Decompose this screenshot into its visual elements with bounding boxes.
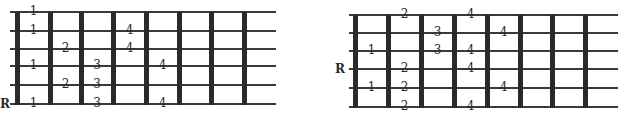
- finger-number: 2: [59, 41, 73, 55]
- root-label: R: [335, 63, 345, 75]
- finger-number: 1: [27, 23, 41, 37]
- finger-number: 4: [156, 96, 170, 110]
- fret-bar-5: [485, 15, 490, 108]
- fret-bar-4: [452, 15, 457, 108]
- finger-number: 4: [123, 23, 137, 37]
- fret-bar-8: [583, 15, 588, 108]
- fret-bar-3: [79, 12, 84, 105]
- finger-number: 3: [90, 58, 104, 72]
- finger-number: 2: [59, 77, 73, 91]
- fret-bar-6: [518, 15, 523, 108]
- finger-number: 1: [365, 80, 379, 94]
- finger-number: 1: [27, 58, 41, 72]
- finger-number: 1: [27, 4, 41, 18]
- fret-bar-1: [353, 15, 358, 108]
- fret-bar-7: [209, 12, 214, 105]
- finger-number: 4: [156, 58, 170, 72]
- fret-bar-5: [144, 12, 149, 105]
- root-label: R: [0, 98, 10, 110]
- fret-bar-1: [15, 12, 20, 105]
- finger-number: 1: [365, 43, 379, 57]
- finger-number: 3: [431, 25, 445, 39]
- fret-bar-2: [48, 12, 53, 105]
- finger-number: 2: [398, 61, 412, 75]
- finger-number: 4: [464, 99, 478, 113]
- finger-number: 3: [90, 77, 104, 91]
- fret-bar-2: [386, 15, 391, 108]
- finger-number: 4: [464, 61, 478, 75]
- finger-number: 4: [123, 41, 137, 55]
- fret-bar-7: [550, 15, 555, 108]
- fret-bar-8: [242, 12, 247, 105]
- fret-bar-3: [419, 15, 424, 108]
- finger-number: 3: [431, 43, 445, 57]
- fret-bar-6: [177, 12, 182, 105]
- finger-number: 4: [464, 7, 478, 21]
- finger-number: 2: [398, 99, 412, 113]
- finger-number: 4: [497, 25, 511, 39]
- finger-number: 2: [398, 7, 412, 21]
- finger-number: 2: [398, 80, 412, 94]
- finger-number: 4: [464, 43, 478, 57]
- finger-number: 4: [497, 80, 511, 94]
- fret-bar-4: [111, 12, 116, 105]
- finger-number: 3: [90, 96, 104, 110]
- finger-number: 1: [27, 96, 41, 110]
